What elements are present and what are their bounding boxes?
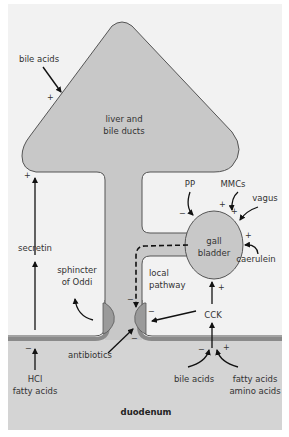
gallbladder-label-2: bladder: [198, 248, 231, 258]
cck-sphincter-sign: −: [148, 307, 155, 316]
cck-gb-sign: +: [218, 283, 225, 292]
pp-sign: −: [179, 209, 186, 218]
fatty-acids-label-2: fatty acids: [233, 374, 278, 384]
antibiotics-sign: −: [131, 334, 138, 343]
hcl-label: HCl: [28, 374, 43, 384]
hcl-sign: −: [25, 344, 32, 353]
local-pathway-label-2: pathway: [149, 280, 186, 290]
sphincter-label: sphincter: [57, 265, 97, 275]
bile-acids-top-label: bile acids: [19, 54, 60, 64]
vagus-label: vagus: [252, 193, 278, 203]
bile-acids-bottom-label: bile acids: [174, 374, 215, 384]
secretin-sign: +: [24, 171, 31, 180]
gallbladder-label: gall: [206, 236, 221, 246]
liver-label: liver and: [105, 114, 142, 124]
antibiotics-label: antibiotics: [68, 350, 113, 360]
cck-label: CCK: [204, 310, 222, 320]
local-pathway-sign: −: [127, 295, 134, 304]
bile-acids-bottom-sign: −: [198, 345, 205, 354]
liver-label-2: bile ducts: [103, 126, 145, 136]
fatty-amino-sign: +: [223, 343, 230, 352]
local-pathway-label: local: [149, 268, 169, 278]
bile-acids-sign: +: [47, 93, 54, 102]
mmcs-label: MMCs: [220, 179, 246, 189]
secretin-label: secretin: [18, 243, 52, 253]
bile-secretion-diagram: liver and bile ducts gall bladder duoden…: [0, 0, 289, 437]
duodenum-label: duodenum: [121, 407, 172, 417]
fatty-acids-label: fatty acids: [13, 386, 58, 396]
pp-label: PP: [185, 179, 195, 189]
vagus-sign: +: [231, 207, 238, 216]
mmcs-sign: +: [219, 200, 226, 209]
caerulein-sign: +: [245, 231, 252, 240]
caerulein-label: caerulein: [236, 254, 275, 264]
sphincter-label-2: of Oddi: [62, 277, 93, 287]
amino-acids-label: amino acids: [229, 386, 281, 396]
